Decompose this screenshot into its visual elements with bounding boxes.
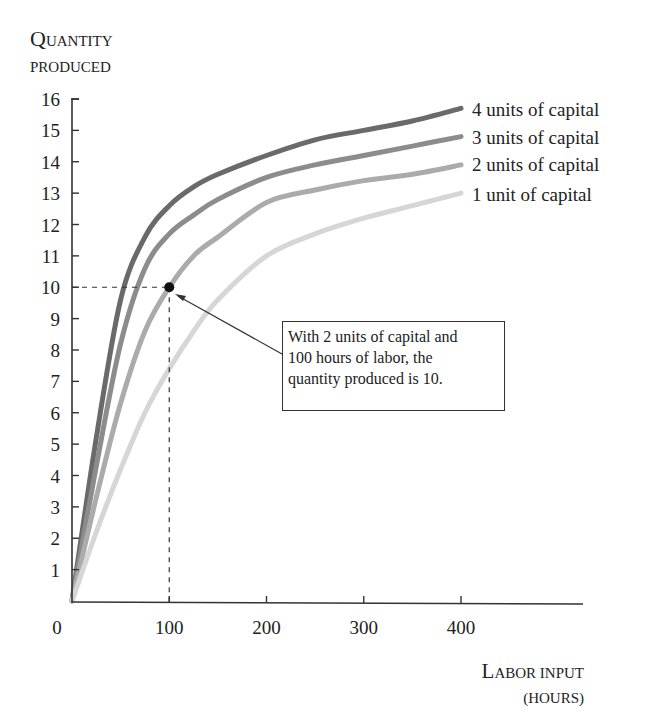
y-axis-ticks: 12345678910111213141516 <box>41 89 79 581</box>
svg-text:(HOURS): (HOURS) <box>523 690 584 707</box>
legend-label: 2 units of capital <box>472 154 599 175</box>
svg-text:LABOR INPUT: LABOR INPUT <box>482 659 584 683</box>
annotation-box: With 2 units of capital and 100 hours of… <box>282 321 505 411</box>
x-tick-label: 0 <box>52 617 62 638</box>
y-tick-label: 13 <box>41 183 60 204</box>
y-tick-label: 14 <box>41 152 61 173</box>
y-tick-label: 4 <box>51 466 61 487</box>
x-axis-title: LABOR INPUT (HOURS) <box>482 659 584 707</box>
annotation-line-3: quantity produced is 10. <box>288 368 499 389</box>
y-tick-label: 7 <box>51 371 61 392</box>
x-axis-line <box>71 602 583 604</box>
y-tick-label: 2 <box>51 528 61 549</box>
svg-text:PRODUCED: PRODUCED <box>30 59 111 75</box>
y-tick-label: 16 <box>41 89 60 110</box>
legend: 4 units of capital3 units of capital2 un… <box>472 99 599 205</box>
annotation-line-1: With 2 units of capital and <box>288 326 499 347</box>
y-tick-label: 1 <box>51 560 61 581</box>
x-tick-label: 200 <box>252 617 281 638</box>
y-tick-label: 10 <box>41 277 60 298</box>
y-tick-label: 8 <box>51 340 61 361</box>
x-tick-label: 100 <box>155 617 184 638</box>
highlight-point-dot <box>164 282 174 292</box>
svg-text:QUANTITY: QUANTITY <box>30 26 113 51</box>
y-tick-label: 15 <box>41 120 60 141</box>
y-tick-label: 5 <box>51 434 61 455</box>
y-axis-title: QUANTITY PRODUCED <box>30 26 113 75</box>
annotation-line-2: 100 hours of labor, the <box>288 347 499 368</box>
x-tick-label: 300 <box>350 617 379 638</box>
y-tick-label: 11 <box>42 246 60 267</box>
y-tick-label: 3 <box>51 497 61 518</box>
annotation-arrow-line <box>178 296 282 354</box>
legend-label: 3 units of capital <box>472 127 599 148</box>
y-tick-label: 6 <box>51 403 61 424</box>
y-tick-label: 9 <box>51 309 61 330</box>
x-tick-label: 400 <box>447 617 476 638</box>
legend-label: 4 units of capital <box>472 99 599 120</box>
legend-label: 1 unit of capital <box>472 184 592 205</box>
y-tick-label: 12 <box>41 215 60 236</box>
